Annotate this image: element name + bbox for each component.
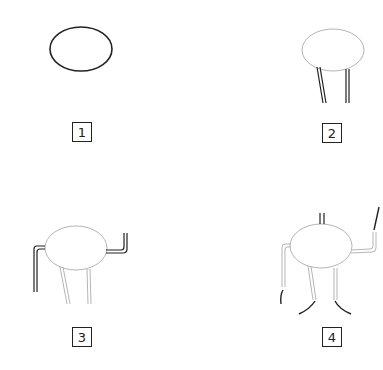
step-3-body-oval xyxy=(45,226,107,270)
step-4-right-arm xyxy=(351,232,376,253)
step-3-left-arm xyxy=(34,246,45,292)
step-1-figure xyxy=(50,27,112,71)
step-4-number: 4 xyxy=(328,331,336,344)
step-4-right-hand xyxy=(374,207,379,230)
step-4-right-leg xyxy=(334,268,337,300)
step-3-figure xyxy=(34,226,127,304)
step-3-number: 3 xyxy=(78,331,86,344)
step-4-left-leg xyxy=(308,266,316,300)
step-4-number-box: 4 xyxy=(322,327,342,347)
drawing-steps-diagram xyxy=(0,0,383,370)
step-4-left-arm xyxy=(282,244,291,287)
step-2-number-box: 2 xyxy=(322,123,342,143)
step-2-left-leg xyxy=(317,67,326,103)
step-2-body-oval xyxy=(302,29,364,71)
step-3-left-leg xyxy=(60,267,70,304)
step-1-body-oval xyxy=(50,27,112,71)
step-4-left-foot xyxy=(299,301,315,314)
step-4-left-hand xyxy=(281,290,283,304)
step-3-number-box: 3 xyxy=(72,327,92,347)
step-4-body-oval xyxy=(290,224,352,268)
step-2-figure xyxy=(302,29,364,103)
step-3-right-arm xyxy=(106,233,127,253)
step-3-right-leg xyxy=(87,269,91,304)
step-1-number: 1 xyxy=(78,126,86,139)
step-2-right-leg xyxy=(346,69,349,103)
step-2-number: 2 xyxy=(328,127,336,140)
step-4-right-foot xyxy=(335,301,351,314)
step-1-number-box: 1 xyxy=(72,122,92,142)
step-4-figure xyxy=(281,207,379,314)
step-4-antennae xyxy=(320,213,324,224)
